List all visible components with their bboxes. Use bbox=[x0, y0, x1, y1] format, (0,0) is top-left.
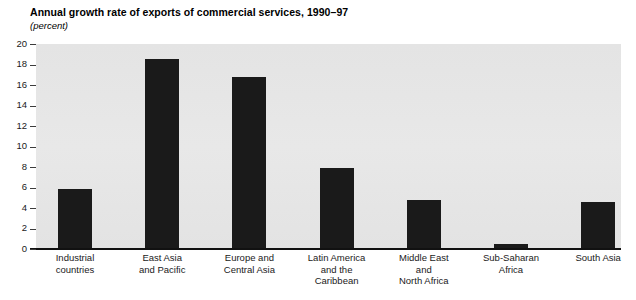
x-axis-labels: IndustrialcountriesEast Asiaand PacificE… bbox=[36, 252, 621, 300]
chart-title-block: Annual growth rate of exports of commerc… bbox=[30, 6, 610, 32]
y-axis-tick-mark bbox=[30, 85, 36, 86]
y-axis-tick-label: 18 bbox=[16, 58, 27, 69]
y-axis-tick-label: 20 bbox=[16, 38, 27, 49]
bar bbox=[581, 202, 615, 249]
y-axis-tick-label: 8 bbox=[22, 161, 27, 172]
x-axis-label-line: Caribbean bbox=[294, 275, 380, 287]
y-axis-tick-label: 12 bbox=[16, 120, 27, 131]
y-axis-tick-mark bbox=[30, 208, 36, 209]
x-axis-label-line: Latin America bbox=[294, 252, 380, 264]
x-axis-label: Middle EastandNorth Africa bbox=[381, 252, 467, 287]
x-axis-label-line: East Asia bbox=[119, 252, 205, 264]
chart-subtitle: (percent) bbox=[30, 20, 610, 32]
y-axis-tick-label: 14 bbox=[16, 99, 27, 110]
chart-figure: Annual growth rate of exports of commerc… bbox=[0, 0, 636, 300]
x-axis-label: Sub-SaharanAfrica bbox=[468, 252, 554, 275]
x-axis-label: Industrialcountries bbox=[32, 252, 118, 275]
y-axis-tick-mark bbox=[30, 147, 36, 148]
plot-area bbox=[36, 44, 621, 249]
x-axis-label-line: Europe and bbox=[206, 252, 292, 264]
x-axis-label-line: Africa bbox=[468, 264, 554, 276]
y-axis-tick-mark bbox=[30, 249, 36, 250]
bar bbox=[407, 200, 441, 249]
y-axis-tick-mark bbox=[30, 106, 36, 107]
x-axis-label-line: Central Asia bbox=[206, 264, 292, 276]
y-axis-tick-mark bbox=[30, 44, 36, 45]
page-title: Annual growth rate of exports of commerc… bbox=[30, 6, 610, 19]
y-axis-tick-label: 16 bbox=[16, 79, 27, 90]
y-axis-tick-label: 6 bbox=[22, 181, 27, 192]
y-axis-tick-label: 0 bbox=[22, 243, 27, 254]
x-axis-label-line: North Africa bbox=[381, 275, 467, 287]
x-axis-label: Latin Americaand theCaribbean bbox=[294, 252, 380, 287]
y-axis-tick-mark bbox=[30, 65, 36, 66]
x-axis-line bbox=[30, 248, 621, 250]
x-axis-label-line: South Asia bbox=[555, 252, 636, 264]
bar bbox=[145, 59, 179, 249]
x-axis-label-line: and Pacific bbox=[119, 264, 205, 276]
y-axis-tick-label: 10 bbox=[16, 140, 27, 151]
x-axis-label-line: and the bbox=[294, 264, 380, 276]
bar bbox=[58, 189, 92, 249]
x-axis-label-line: and bbox=[381, 264, 467, 276]
x-axis-label: Europe andCentral Asia bbox=[206, 252, 292, 275]
y-axis-tick-mark bbox=[30, 188, 36, 189]
y-axis-tick-mark bbox=[30, 167, 36, 168]
y-axis-tick-label: 4 bbox=[22, 202, 27, 213]
y-axis-tick-mark bbox=[30, 126, 36, 127]
y-axis-tick-mark bbox=[30, 229, 36, 230]
x-axis-label: East Asiaand Pacific bbox=[119, 252, 205, 275]
x-axis-label-line: Middle East bbox=[381, 252, 467, 264]
x-axis-label-line: Sub-Saharan bbox=[468, 252, 554, 264]
y-axis: 02468101214161820 bbox=[0, 44, 36, 250]
bar bbox=[320, 168, 354, 249]
x-axis-label-line: countries bbox=[32, 264, 118, 276]
x-axis-label-line: Industrial bbox=[32, 252, 118, 264]
y-axis-tick-label: 2 bbox=[22, 222, 27, 233]
x-axis-label: South Asia bbox=[555, 252, 636, 264]
bar bbox=[232, 77, 266, 249]
